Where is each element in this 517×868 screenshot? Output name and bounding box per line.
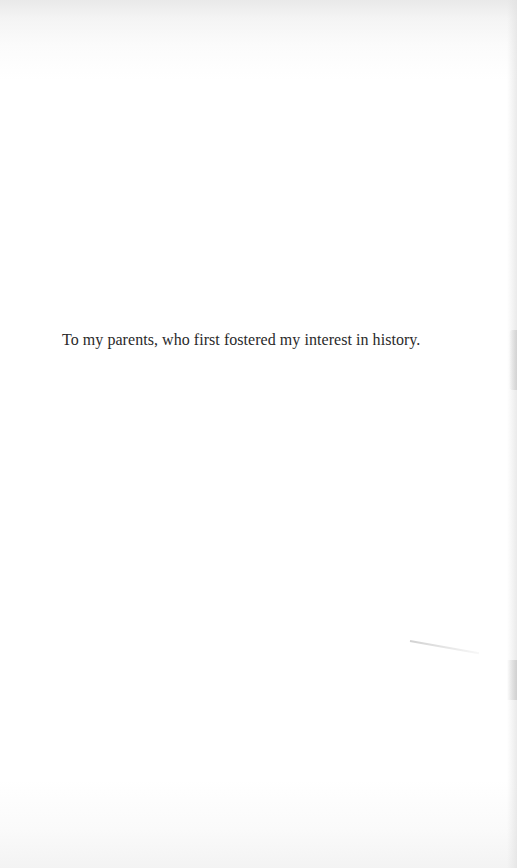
scan-artifact — [410, 640, 479, 654]
dedication-text: To my parents, who first fostered my int… — [62, 331, 420, 349]
page-edge-shadow — [507, 0, 517, 868]
book-page: To my parents, who first fostered my int… — [0, 0, 517, 868]
page-edge-mark — [507, 660, 517, 700]
page-edge-mark — [509, 330, 517, 390]
